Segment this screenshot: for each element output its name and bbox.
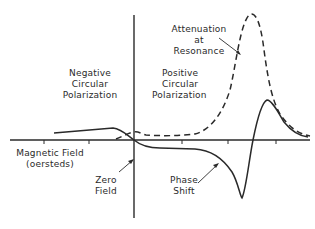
negative-polarization-label: Negative Circular Polarization [50,68,130,101]
x-axis-label: Magnetic Field (oersteds) [10,148,90,170]
label-line: Resonance [164,46,234,57]
diagram-canvas [0,0,315,229]
phase-shift-label: Phase Shift [168,175,200,197]
label-line: Attenuation [164,24,234,35]
label-line: (oersteds) [10,159,90,170]
label-line: Polarization [50,90,130,101]
phase-shift-arrowhead [213,163,219,168]
label-line: Circular [152,79,232,90]
label-line: Negative [50,68,130,79]
label-line: Magnetic Field [10,148,90,159]
faraday-rotation-diagram: Negative Circular Polarization Positive … [0,0,315,229]
label-line: Zero [94,175,118,186]
attenuation-label: Attenuation at Resonance [164,24,234,57]
label-line: Positive [152,68,232,79]
zero-field-label: Zero Field [94,175,118,197]
label-line: Phase [168,175,200,186]
label-line: Field [94,186,118,197]
label-line: at [164,35,234,46]
label-line: Shift [168,186,200,197]
label-line: Polarization [152,90,232,101]
positive-polarization-label: Positive Circular Polarization [152,68,232,101]
label-line: Circular [50,79,130,90]
